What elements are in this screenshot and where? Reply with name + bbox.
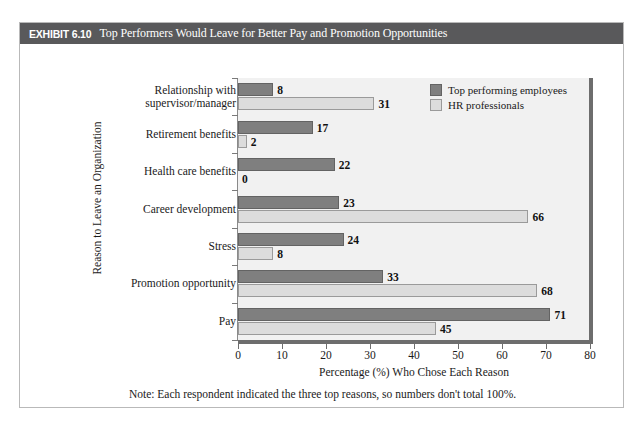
bar [238,121,313,134]
y-axis-tick [232,228,238,229]
bar [238,233,344,246]
chart-area: Reason to Leave an Organization Relation… [20,44,625,408]
legend-label: Top performing employees [448,84,567,96]
y-axis-title: Reason to Leave an Organization [91,98,103,298]
y-axis-tick [232,303,238,304]
category-label: Relationship withsupervisor/manager [110,84,236,110]
category-label-line: Pay [110,315,236,328]
x-axis-tick-label: 10 [267,349,297,361]
category-label-line: Retirement benefits [110,128,236,141]
legend-swatch [430,99,442,111]
x-axis-line [238,340,593,344]
y-axis-tick [232,115,238,116]
bar-value-label: 23 [343,197,355,209]
bar-value-label: 22 [339,159,351,171]
bar [238,196,339,209]
legend-swatch [430,84,442,96]
bar-value-label: 66 [532,211,544,223]
exhibit-title: Top Performers Would Leave for Better Pa… [99,26,447,41]
category-axis-labels: Relationship withsupervisor/managerRetir… [110,78,236,340]
bar-value-label: 8 [277,248,283,260]
exhibit-frame: EXHIBIT 6.10 Top Performers Would Leave … [19,22,624,408]
bar [238,308,550,321]
category-label-line: Relationship with [110,84,236,97]
x-axis-tick-label: 60 [487,349,517,361]
bar-value-label: 71 [554,309,566,321]
chart-legend: Top performing employeesHR professionals [430,84,580,114]
x-axis-tick-label: 70 [531,349,561,361]
bar [238,158,335,171]
category-label: Stress [110,240,236,253]
x-axis-tick-label: 40 [399,349,429,361]
legend-label: HR professionals [448,99,524,111]
x-axis-tick-label: 50 [443,349,473,361]
category-label: Retirement benefits [110,128,236,141]
bar [238,247,273,260]
bar [238,97,374,110]
category-label: Career development [110,203,236,216]
bar-value-label: 0 [242,173,248,185]
category-label-line: Promotion opportunity [110,277,236,290]
x-axis-title: Percentage (%) Who Chose Each Reason [238,366,590,378]
y-axis-tick [232,265,238,266]
category-label-line: Career development [110,203,236,216]
y-axis-tick [232,190,238,191]
x-axis-tick-label: 80 [575,349,605,361]
bar-value-label: 33 [387,271,399,283]
bar-value-label: 31 [378,98,390,110]
bar [238,135,247,148]
category-label-line: supervisor/manager [110,97,236,110]
bar [238,322,436,335]
bar-value-label: 2 [251,136,257,148]
category-label-line: Stress [110,240,236,253]
bar-value-label: 68 [541,285,553,297]
bar [238,210,528,223]
bar [238,284,537,297]
legend-item: Top performing employees [430,84,580,96]
bar-value-label: 24 [348,234,360,246]
y-axis-tick [232,78,238,79]
exhibit-header: EXHIBIT 6.10 Top Performers Would Leave … [20,23,623,44]
bar-value-label: 8 [277,84,283,96]
plot-right-border [589,78,593,344]
x-axis-tick-label: 20 [311,349,341,361]
exhibit-number: EXHIBIT 6.10 [29,28,91,40]
category-label: Pay [110,315,236,328]
bar-value-label: 17 [317,122,329,134]
bar [238,83,273,96]
category-label: Promotion opportunity [110,277,236,290]
x-axis-tick-label: 30 [355,349,385,361]
x-axis-tick-label: 0 [223,349,253,361]
bar [238,270,383,283]
category-label-line: Health care benefits [110,165,236,178]
bar-value-label: 45 [440,323,452,335]
y-axis-tick [232,340,238,341]
y-axis-tick [232,153,238,154]
category-label: Health care benefits [110,165,236,178]
chart-note: Note: Each respondent indicated the thre… [20,388,625,400]
legend-item: HR professionals [430,99,580,111]
